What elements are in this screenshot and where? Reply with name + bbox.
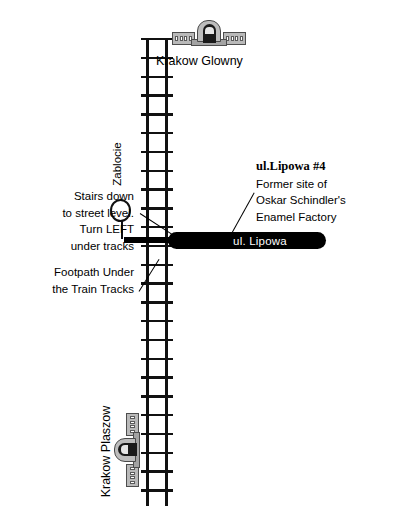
railway-tie xyxy=(141,264,173,266)
railway-tie xyxy=(141,132,173,134)
railway-tie xyxy=(141,245,173,247)
railway-tie xyxy=(141,395,173,397)
annotation-destination: ul.Lipowa #4 Former site of Oskar Schind… xyxy=(256,158,386,225)
destination-line1: Former site of xyxy=(256,176,386,193)
leader-line-destination xyxy=(230,193,255,237)
railway-tie xyxy=(141,170,173,172)
railway-tie xyxy=(141,113,173,115)
railway-tie xyxy=(141,470,173,472)
railway-tie xyxy=(141,188,173,190)
railway-ties xyxy=(141,38,173,506)
railway-tie xyxy=(141,414,173,416)
road-label-lipowa: ul. Lipowa xyxy=(207,235,287,247)
station-arch-window-icon xyxy=(121,446,128,455)
station-label-zablocie: Zablocie xyxy=(110,134,124,194)
destination-title: ul.Lipowa #4 xyxy=(256,158,386,175)
railway-tie xyxy=(141,376,173,378)
annotation-footpath-line2: the Train Tracks xyxy=(12,281,134,298)
railway-tie xyxy=(141,320,173,322)
map-canvas: Krakow Glowny Zablocie ul. Lipowa Stairs… xyxy=(0,0,393,520)
station-label-krakow-glowny: Krakow Glowny xyxy=(156,54,243,68)
railway-tie xyxy=(141,76,173,78)
road-segment-lipowa: ul. Lipowa xyxy=(168,232,326,249)
annotation-stairs-line4: under tracks xyxy=(12,238,134,255)
railway-tie xyxy=(141,226,173,228)
annotation-footpath: Footpath Under the Train Tracks xyxy=(12,264,134,297)
annotation-stairs: Stairs down to street level. Turn LEFT u… xyxy=(12,188,134,254)
annotation-stairs-line1: Stairs down xyxy=(12,188,134,205)
railway-tie xyxy=(141,38,173,40)
station-arch-window-icon xyxy=(205,27,214,34)
destination-line2: Oskar Schindler's xyxy=(256,192,386,209)
railway-tie xyxy=(141,94,173,96)
annotation-stairs-line3: Turn LEFT xyxy=(12,221,134,238)
train-station-icon xyxy=(112,413,144,487)
railway-tie xyxy=(141,489,173,491)
train-station-icon xyxy=(172,18,246,50)
railway-tie xyxy=(141,207,173,209)
railway-tie xyxy=(141,301,173,303)
railway-tie xyxy=(141,282,173,284)
railway-tie xyxy=(141,358,173,360)
annotation-footpath-line1: Footpath Under xyxy=(12,264,134,281)
railway-tie xyxy=(141,433,173,435)
annotation-stairs-line2: to street level. xyxy=(12,205,134,222)
railway-tie xyxy=(141,339,173,341)
destination-line3: Enamel Factory xyxy=(256,209,386,226)
station-label-krakow-plaszow: Krakow Plaszow xyxy=(99,400,114,504)
railway-tie xyxy=(141,151,173,153)
railway-tie xyxy=(141,452,173,454)
